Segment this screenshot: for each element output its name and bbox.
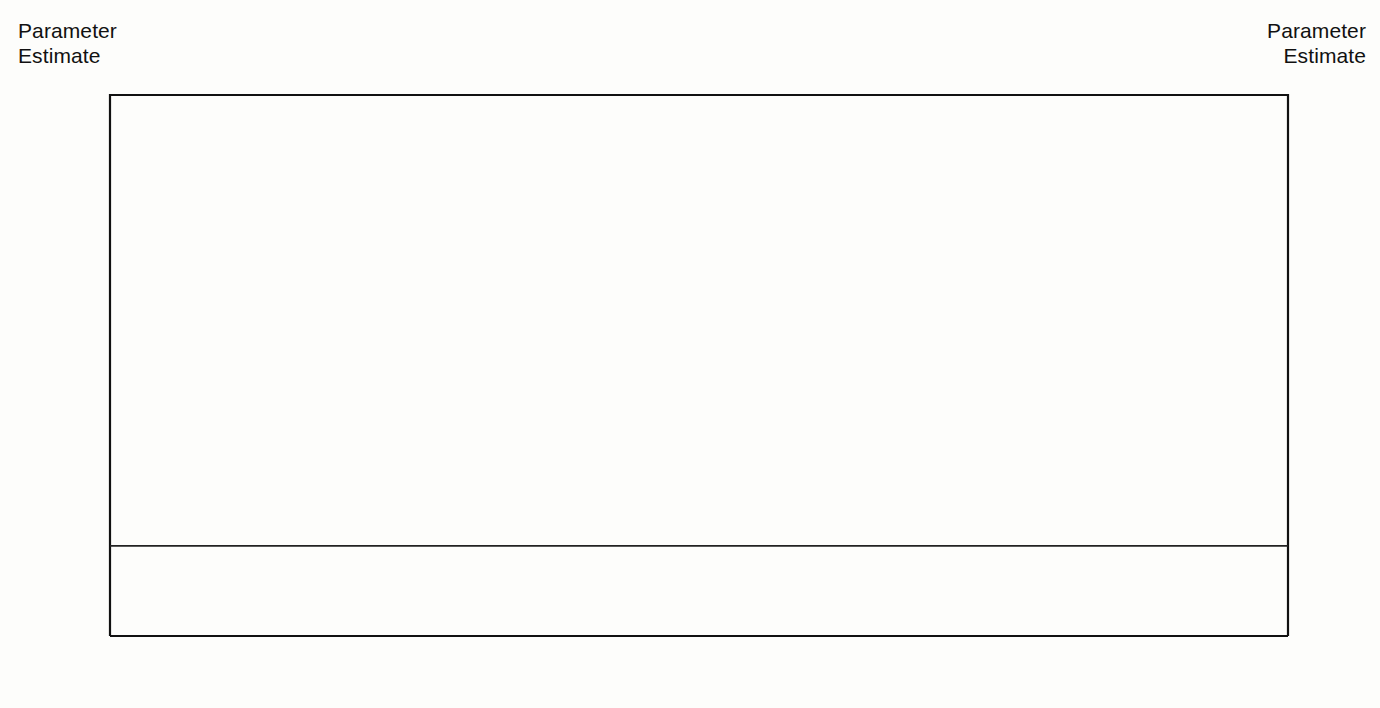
plot-frame-path: [110, 95, 1288, 636]
plot-area: [0, 0, 1380, 708]
chart-container: Parameter Estimate Parameter Estimate: [0, 0, 1380, 708]
plot-frame: [110, 95, 1288, 636]
